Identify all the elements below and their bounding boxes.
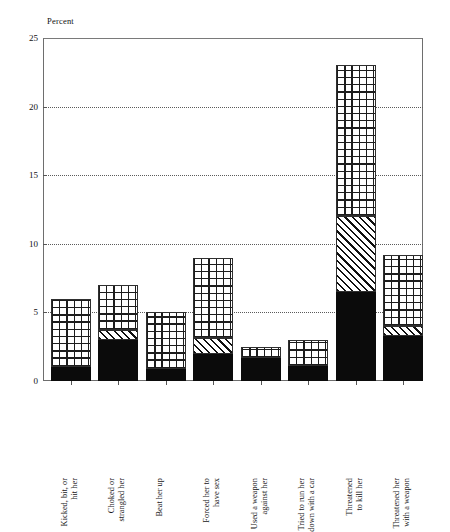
x-axis-category-label: down with a car [307, 478, 316, 532]
bar-segment-solid [336, 292, 376, 381]
bar-segment-solid [146, 369, 186, 381]
x-axis-category-label: hit her [70, 478, 79, 500]
bar-segment-grid [383, 255, 423, 326]
bar-segment-solid [98, 340, 138, 381]
y-axis-tick-label: 0 [0, 376, 38, 386]
bar-segment-solid [383, 336, 423, 381]
x-axis-category-label: with a weapon [402, 478, 411, 527]
x-axis-tick-mark [356, 381, 357, 385]
bar-segment-solid [288, 366, 328, 381]
bar-segment-grid [51, 299, 91, 368]
x-axis-category-label: Forced her to [202, 478, 211, 523]
bar [51, 299, 91, 381]
bar-segment-grid [146, 312, 186, 368]
bar-segment-hatch [98, 330, 138, 340]
y-axis-tick-label: 25 [0, 33, 38, 43]
bar-segment-grid [336, 65, 376, 216]
x-axis-category-label: Threatened [345, 478, 354, 516]
bar-segment-grid [241, 347, 281, 358]
x-axis-category-label: to kill her [355, 478, 364, 511]
bar-segment-hatch [383, 326, 423, 336]
y-axis-tick-label: 15 [0, 170, 38, 180]
x-axis-tick-mark [213, 381, 214, 385]
y-axis-tick-label: 20 [0, 102, 38, 112]
x-axis-category-label: Choked or [107, 478, 116, 513]
bar [383, 255, 423, 381]
x-axis-category-label: Tried to run her [297, 478, 306, 531]
x-axis-category-label: Used a weapon [250, 478, 259, 529]
bar-segment-grid [98, 285, 138, 330]
x-axis-category-label: have sex [212, 478, 221, 507]
x-axis-category-label: against her [260, 478, 269, 515]
x-axis-labels: Kicked, bit, orhit herChoked orstrangled… [0, 386, 450, 485]
y-axis-tick-label: 10 [0, 239, 38, 249]
bar-segment-hatch [193, 338, 233, 353]
y-axis-title: Percent [47, 16, 74, 26]
bar-segment-grid [193, 258, 233, 339]
bar [98, 285, 138, 381]
bar-segment-solid [241, 358, 281, 381]
bar [146, 312, 186, 381]
x-axis-tick-mark [261, 381, 262, 385]
bar [288, 340, 328, 381]
x-axis-category-label: Kicked, bit, or [60, 478, 69, 526]
bars-container [43, 38, 423, 381]
bar [193, 258, 233, 381]
bar-segment-solid [193, 354, 233, 381]
x-axis-tick-mark [118, 381, 119, 385]
bar-segment-grid [288, 340, 328, 366]
bar [336, 65, 376, 381]
x-axis-tick-mark [166, 381, 167, 385]
x-axis-category-label: strangled her [117, 478, 126, 522]
x-axis-tick-mark [403, 381, 404, 385]
x-axis-tick-mark [308, 381, 309, 385]
bar-segment-solid [51, 367, 91, 381]
x-axis-category-label: Threatened her [392, 478, 401, 528]
bar [241, 347, 281, 381]
bar-segment-hatch [336, 216, 376, 291]
x-axis-category-label: Beat her up [155, 478, 164, 517]
y-axis-tick-label: 5 [0, 307, 38, 317]
x-axis-tick-mark [71, 381, 72, 385]
